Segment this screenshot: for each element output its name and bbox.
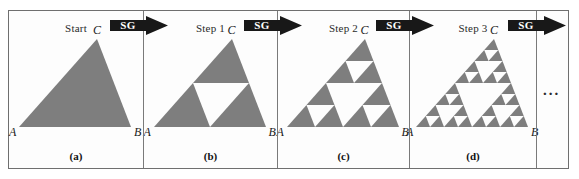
sg-arrow-1: SG — [110, 16, 168, 35]
sg-arrow-3: SG — [376, 16, 434, 35]
vertex-label-c: C — [490, 23, 498, 38]
panel-caption: (c) — [278, 150, 409, 162]
vertex-label-b: B — [269, 125, 276, 140]
panel-caption: (d) — [410, 150, 536, 162]
vertex-label-c: C — [361, 23, 369, 38]
panel-caption: (a) — [9, 150, 143, 162]
panel-caption: (b) — [144, 150, 277, 162]
vertex-label-a: A — [9, 125, 16, 140]
sg-arrow-label: SG — [110, 16, 146, 35]
sg-arrow-label: SG — [508, 16, 544, 35]
triangle-area: ABC — [278, 37, 409, 147]
vertex-label-b: B — [531, 125, 538, 140]
vertex-label-c: C — [228, 23, 236, 38]
sierpinski-gasket-figure: StartABC(a)Step 1ABC(b)Step 2ABC(c)Step … — [0, 0, 579, 179]
sg-arrow-label: SG — [376, 16, 412, 35]
triangle-area: ABC — [9, 37, 143, 147]
vertex-label-c: C — [93, 23, 101, 38]
sg-arrow-label: SG — [244, 16, 280, 35]
sierpinski-triangle-depth-2 — [285, 37, 403, 131]
triangle-area: ABC — [144, 37, 277, 147]
continuation-ellipsis: ... — [543, 82, 560, 99]
sierpinski-triangle-depth-3 — [414, 37, 532, 131]
sierpinski-triangle-depth-1 — [152, 37, 270, 131]
vertex-label-b: B — [134, 125, 141, 140]
sg-arrow-2: SG — [244, 16, 302, 35]
sg-arrow-4: SG — [508, 16, 566, 35]
vertex-label-a: A — [144, 125, 151, 140]
triangle-area: ABC — [410, 37, 536, 147]
sierpinski-triangle-depth-0 — [17, 37, 135, 131]
